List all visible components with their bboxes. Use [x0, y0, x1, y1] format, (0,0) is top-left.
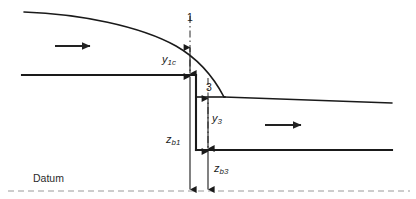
zb1-label-base: z — [166, 133, 172, 145]
zb1-label-sub: b1 — [172, 138, 181, 147]
upstream-water-surface — [24, 12, 224, 97]
y3-label: y3 — [212, 113, 222, 124]
y3-label-base: y — [212, 112, 218, 124]
section-3-label: 3 — [206, 82, 212, 93]
y1c-label-sub: 1c — [168, 58, 176, 67]
y1c-label-base: y — [162, 53, 168, 65]
zb1-label: zb1 — [166, 134, 180, 145]
y1c-label: y1c — [162, 54, 176, 65]
figure-container: 1 3 y1c y3 zb1 zb3 Datum — [0, 0, 416, 199]
zb3-label: zb3 — [214, 163, 228, 174]
zb3-label-sub: b3 — [220, 167, 229, 176]
zb3-label-base: z — [214, 162, 220, 174]
section-1-label: 1 — [187, 12, 193, 23]
y3-label-sub: 3 — [218, 117, 222, 126]
downstream-water-surface — [224, 97, 392, 103]
datum-label: Datum — [33, 173, 64, 184]
diagram-canvas — [0, 0, 416, 199]
